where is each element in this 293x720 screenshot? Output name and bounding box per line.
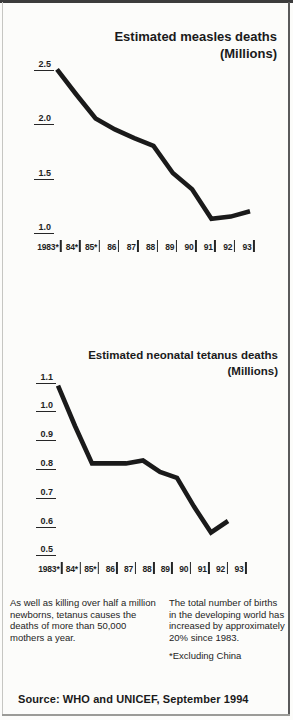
y-axis-label: 0.8 bbox=[36, 458, 56, 470]
x-axis-label-text: 89 bbox=[165, 243, 174, 252]
x-axis-tick bbox=[79, 240, 81, 252]
y-axis-label: 1.5 bbox=[34, 168, 54, 180]
x-axis-tick bbox=[208, 562, 210, 574]
x-axis-tick bbox=[98, 562, 100, 574]
x-axis-label: 91 bbox=[198, 562, 210, 574]
x-axis-tick bbox=[227, 562, 229, 574]
x-axis-tick bbox=[176, 240, 178, 252]
x-axis-tick bbox=[214, 240, 216, 252]
x-axis-label: 91 bbox=[204, 240, 216, 252]
y-axis-label: 2.0 bbox=[34, 113, 54, 125]
x-axis-label-text: 92 bbox=[216, 565, 225, 574]
x-axis-label: 90 bbox=[179, 562, 191, 574]
y-axis-label: 0.9 bbox=[36, 429, 56, 441]
x-axis-tick bbox=[61, 562, 63, 574]
x-axis-label-text: 84* bbox=[66, 565, 78, 574]
x-axis-label: 88 bbox=[142, 562, 154, 574]
note-births-increase: The total number of births in the develo… bbox=[169, 597, 286, 643]
x-axis-tick bbox=[153, 562, 155, 574]
x-axis-label: 93 bbox=[242, 240, 254, 252]
x-axis-tick bbox=[253, 240, 255, 252]
x-axis-label-text: 91 bbox=[198, 565, 207, 574]
x-axis-tick bbox=[195, 240, 197, 252]
x-axis-tick bbox=[60, 240, 62, 252]
x-axis-label: 85* bbox=[84, 562, 99, 574]
x-axis-label-text: 90 bbox=[185, 243, 194, 252]
y-axis-label: 1.0 bbox=[36, 400, 56, 412]
x-axis-label: 85* bbox=[85, 240, 100, 252]
x-axis-label: 90 bbox=[185, 240, 197, 252]
x-axis-tick bbox=[135, 562, 137, 574]
x-axis-tick bbox=[116, 562, 118, 574]
x-axis-label: 93 bbox=[234, 562, 246, 574]
source-line: Source: WHO and UNICEF, September 1994 bbox=[18, 693, 249, 705]
x-axis-tick bbox=[234, 240, 236, 252]
x-axis-label-text: 86 bbox=[107, 243, 116, 252]
x-axis-label-text: 1983* bbox=[37, 243, 58, 252]
y-axis-label: 0.5 bbox=[36, 544, 56, 556]
x-axis-label: 84* bbox=[66, 240, 81, 252]
x-axis-label: 89 bbox=[161, 562, 173, 574]
trend-line bbox=[58, 386, 228, 533]
x-axis-label-text: 86 bbox=[106, 565, 115, 574]
figure-page: Estimated measles deaths (Millions) 2.52… bbox=[0, 0, 293, 720]
y-axis-label: 0.7 bbox=[36, 487, 56, 499]
x-axis-label-text: 93 bbox=[242, 243, 251, 252]
x-axis-label: 86 bbox=[107, 240, 119, 252]
measles-chart: Estimated measles deaths (Millions) 2.52… bbox=[0, 0, 293, 260]
y-axis-label: 0.6 bbox=[36, 516, 56, 528]
x-axis-tick bbox=[245, 562, 247, 574]
x-axis-label: 84* bbox=[66, 562, 81, 574]
trend-line bbox=[57, 69, 250, 218]
x-axis-tick bbox=[190, 562, 192, 574]
y-axis-label: 1.0 bbox=[34, 222, 54, 234]
x-axis-label: 92 bbox=[223, 240, 235, 252]
x-axis-label-text: 88 bbox=[142, 565, 151, 574]
x-axis-label: 88 bbox=[146, 240, 158, 252]
x-axis-label-text: 85* bbox=[85, 243, 97, 252]
x-axis-label-text: 92 bbox=[223, 243, 232, 252]
x-axis-label-text: 91 bbox=[204, 243, 213, 252]
x-axis-label: 1983* bbox=[38, 562, 62, 574]
x-axis-label-text: 1983* bbox=[38, 565, 59, 574]
x-axis-tick bbox=[137, 240, 139, 252]
measles-plot: 2.52.01.51.01983*84*85*8687888990919293 bbox=[0, 0, 293, 260]
frame-border-bottom bbox=[2, 714, 290, 716]
y-axis-label: 1.1 bbox=[36, 372, 56, 384]
x-axis-label: 92 bbox=[216, 562, 228, 574]
x-axis-label: 86 bbox=[106, 562, 118, 574]
tetanus-chart: Estimated neonatal tetanus deaths (Milli… bbox=[0, 340, 293, 590]
note-births-column: The total number of births in the develo… bbox=[169, 597, 286, 662]
x-axis-tick bbox=[171, 562, 173, 574]
x-axis-label: 87 bbox=[127, 240, 139, 252]
x-axis-label-text: 87 bbox=[124, 565, 133, 574]
x-axis-label: 1983* bbox=[37, 240, 61, 252]
x-axis-label-text: 85* bbox=[84, 565, 96, 574]
x-axis-label-text: 87 bbox=[127, 243, 136, 252]
tetanus-plot: 1.11.00.90.80.70.60.51983*84*85*86878889… bbox=[0, 340, 293, 590]
x-axis-label-text: 90 bbox=[179, 565, 188, 574]
x-axis-tick bbox=[118, 240, 120, 252]
x-axis-label-text: 84* bbox=[66, 243, 78, 252]
x-axis-label-text: 93 bbox=[234, 565, 243, 574]
x-axis-tick bbox=[99, 240, 101, 252]
x-axis-label-text: 89 bbox=[161, 565, 170, 574]
x-axis-label: 89 bbox=[165, 240, 177, 252]
x-axis-tick bbox=[79, 562, 81, 574]
footnotes: As well as killing over half a million n… bbox=[10, 597, 286, 662]
note-tetanus-mothers: As well as killing over half a million n… bbox=[10, 597, 160, 662]
x-axis-tick bbox=[157, 240, 159, 252]
y-axis-label: 2.5 bbox=[34, 59, 54, 71]
trend-line-svg bbox=[0, 0, 293, 260]
x-axis-label: 87 bbox=[124, 562, 136, 574]
x-axis-label-text: 88 bbox=[146, 243, 155, 252]
excluding-china-footnote: *Excluding China bbox=[169, 650, 286, 662]
